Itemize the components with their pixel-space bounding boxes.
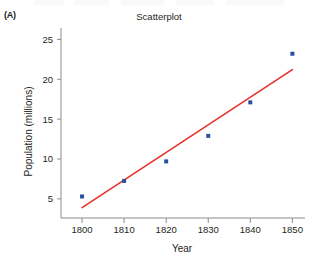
- svg-text:1850: 1850: [282, 224, 303, 235]
- axes: [61, 28, 305, 218]
- plot-area: 510152025 180018101820183018401850: [0, 0, 318, 262]
- x-tick-labels: 180018101820183018401850: [71, 224, 302, 235]
- svg-text:1800: 1800: [71, 224, 92, 235]
- svg-text:5: 5: [48, 193, 53, 204]
- tick-marks: [57, 39, 292, 223]
- scatterplot-figure: (A) Scatterplot 510152025 18001810182018…: [0, 0, 318, 262]
- svg-text:1830: 1830: [198, 224, 219, 235]
- svg-text:10: 10: [42, 153, 53, 164]
- svg-text:20: 20: [42, 74, 53, 85]
- x-axis-label: Year: [61, 243, 303, 254]
- svg-text:25: 25: [42, 34, 53, 45]
- svg-text:1840: 1840: [240, 224, 261, 235]
- svg-text:15: 15: [42, 114, 53, 125]
- svg-text:1820: 1820: [156, 224, 177, 235]
- y-tick-labels: 510152025: [42, 34, 53, 204]
- data-points: [80, 52, 294, 199]
- regression-line: [82, 70, 292, 208]
- svg-text:1810: 1810: [114, 224, 135, 235]
- y-axis-label: Population (millions): [23, 52, 34, 212]
